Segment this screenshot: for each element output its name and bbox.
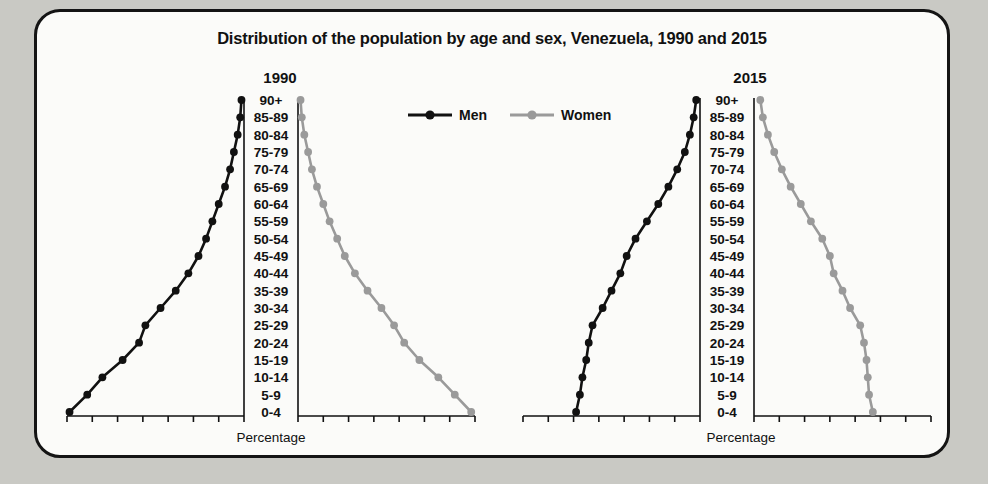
x-axis-label-2015: Percentage [641,430,841,445]
data-point-men [585,339,593,347]
age-group-label: 80-84 [254,128,289,143]
data-point-women [863,356,871,364]
data-point-men [576,391,584,399]
age-group-label: 35-39 [710,284,745,299]
pyramid-panel-1990: 002244668810101212141490+85-8980-8475-79… [53,94,489,424]
pyramid-svg-1990: 002244668810101212141490+85-8980-8475-79… [53,94,489,424]
age-group-label: 70-74 [710,162,745,177]
data-point-women [770,148,778,156]
data-point-women [826,252,834,260]
data-point-women [759,113,767,121]
series-line-women [760,100,873,412]
age-group-label: 60-64 [710,197,745,212]
data-point-men [654,200,662,208]
pyramid-svg-2015: 002244668810101212141490+85-8980-8475-79… [509,94,945,424]
data-point-men [681,148,689,156]
data-point-women [756,96,764,104]
data-point-men [141,321,149,329]
age-group-label: 75-79 [710,145,745,160]
data-point-women [415,356,423,364]
age-group-label: 10-14 [710,370,745,385]
data-point-women [797,200,805,208]
age-group-label: 85-89 [254,110,289,125]
data-point-women [787,183,795,191]
data-point-men [690,113,698,121]
data-point-women [869,408,877,416]
data-point-women [846,304,854,312]
age-group-label: 80-84 [710,128,745,143]
data-point-men [234,131,242,139]
age-group-label: 20-24 [254,336,289,351]
data-point-men [83,391,91,399]
age-group-label: 0-4 [261,405,281,420]
age-group-label: 50-54 [710,232,745,247]
data-point-men [572,408,580,416]
panel-year-1990: 1990 [220,69,340,86]
age-group-label: 15-19 [254,353,289,368]
age-group-label: 55-59 [710,214,745,229]
data-point-men [208,217,216,225]
data-point-men [599,304,607,312]
age-group-label: 15-19 [710,353,745,368]
data-point-women [807,217,815,225]
data-point-women [839,287,847,295]
age-group-label: 25-29 [254,318,289,333]
data-point-men [238,96,246,104]
series-line-women [301,100,472,412]
age-group-label: 65-69 [254,180,289,195]
data-point-women [856,321,864,329]
age-group-label: 40-44 [710,266,745,281]
data-point-women [298,113,306,121]
data-point-men [202,235,210,243]
data-point-women [467,408,475,416]
age-group-label: 5-9 [261,388,281,403]
data-point-men [119,356,127,364]
data-point-men [172,287,180,295]
data-point-women [864,373,872,381]
age-group-label: 25-29 [710,318,745,333]
age-group-label: 45-49 [710,249,745,264]
age-group-label: 30-34 [710,301,745,316]
data-point-men [66,408,74,416]
age-group-label: 90+ [716,94,739,108]
age-group-label: 90+ [260,94,283,108]
data-point-women [333,235,341,243]
data-point-women [319,200,327,208]
data-point-women [390,321,398,329]
data-point-men [99,373,107,381]
data-point-women [860,339,868,347]
pyramid-panel-2015: 002244668810101212141490+85-8980-8475-79… [509,94,945,424]
data-point-men [135,339,143,347]
data-point-women [830,269,838,277]
data-point-men [221,183,229,191]
data-point-women [865,391,873,399]
age-group-label: 50-54 [254,232,289,247]
data-point-men [236,113,244,121]
data-point-men [673,165,681,173]
data-point-women [351,269,359,277]
data-point-women [434,373,442,381]
data-point-women [364,287,372,295]
data-point-men [643,217,651,225]
data-point-women [304,148,312,156]
data-point-men [582,356,590,364]
data-point-men [632,235,640,243]
data-point-women [378,304,386,312]
page-title: Distribution of the population by age an… [37,29,947,48]
data-point-men [579,373,587,381]
data-point-men [686,131,694,139]
data-point-women [778,165,786,173]
data-point-men [230,148,238,156]
x-axis-label-1990: Percentage [171,430,371,445]
age-group-label: 70-74 [254,162,289,177]
age-group-label: 40-44 [254,266,289,281]
data-point-men [157,304,165,312]
data-point-women [341,252,349,260]
age-group-label: 65-69 [710,180,745,195]
data-point-women [297,96,305,104]
data-point-women [451,391,459,399]
series-line-men [576,100,696,412]
data-point-men [226,165,234,173]
series-line-men [70,100,242,412]
age-group-label: 60-64 [254,197,289,212]
